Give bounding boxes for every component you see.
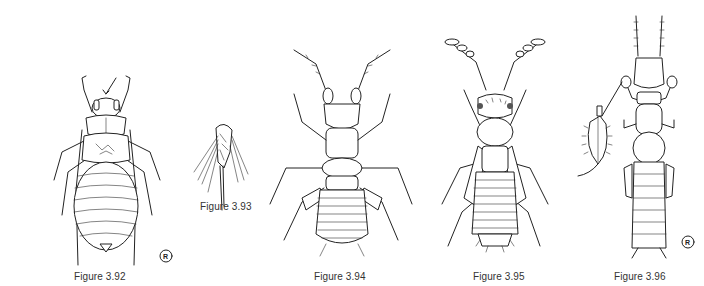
figure-3-95: [420, 34, 570, 266]
insect-illustration-3-95: [420, 34, 570, 266]
figure-3-96: R: [576, 12, 704, 268]
insect-illustration-3-94: [262, 44, 422, 264]
caption-figure-3-93: Figure 3.93: [200, 201, 252, 212]
insect-illustration-3-92: R: [20, 30, 190, 270]
figure-3-92: R: [20, 30, 190, 270]
caption-figure-3-92: Figure 3.92: [74, 271, 126, 282]
caption-figure-3-95: Figure 3.95: [473, 271, 525, 282]
figure-3-94: [262, 44, 422, 264]
caption-figure-3-96: Figure 3.96: [614, 271, 666, 282]
insect-illustration-3-96: R: [576, 12, 704, 268]
artist-mark-3-96: R: [685, 239, 690, 246]
caption-figure-3-94: Figure 3.94: [314, 271, 366, 282]
artist-mark-3-92: R: [163, 253, 168, 260]
